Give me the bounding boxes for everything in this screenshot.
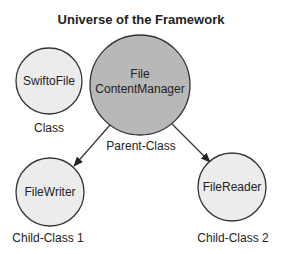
caption-child-class-1: Child-Class 1 <box>12 231 84 245</box>
node-filecontentmanager: File ContentManager <box>90 35 190 135</box>
caption-parent-class: Parent-Class <box>106 139 175 153</box>
node-filewriter: FileWriter <box>16 158 84 226</box>
node-label-line-1: File <box>130 67 150 81</box>
node-filereader: FileReader <box>198 153 266 221</box>
node-label: SwiftoFile <box>23 74 75 88</box>
node-swiftofile: SwiftoFile <box>16 48 82 114</box>
caption-class: Class <box>34 121 64 135</box>
class-hierarchy-diagram: Universe of the Framework SwiftoFile Cla… <box>0 0 282 254</box>
node-label: FileReader <box>203 180 262 194</box>
caption-child-class-2: Child-Class 2 <box>197 231 269 245</box>
node-label-line-2: ContentManager <box>95 82 184 96</box>
diagram-title: Universe of the Framework <box>58 12 226 27</box>
node-label: FileWriter <box>24 185 75 199</box>
